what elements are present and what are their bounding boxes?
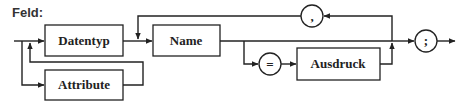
- ausdruck-return-line: [380, 43, 392, 64]
- name-label: Name: [170, 33, 203, 48]
- syntax-diagram: Feld: Datentyp Attribute , Name = Ausdru…: [0, 0, 468, 106]
- datentyp-label: Datentyp: [58, 33, 109, 48]
- ausdruck-label: Ausdruck: [311, 56, 367, 71]
- comma-label: ,: [310, 9, 313, 24]
- comma-loop-in-line: [324, 16, 392, 41]
- attribute-branch-line: [22, 41, 44, 85]
- equals-label: =: [266, 57, 273, 72]
- attribute-label: Attribute: [58, 77, 110, 92]
- semicolon-label: ;: [424, 33, 428, 48]
- diagram-title: Feld:: [12, 5, 43, 20]
- initializer-branch-line: [244, 41, 258, 64]
